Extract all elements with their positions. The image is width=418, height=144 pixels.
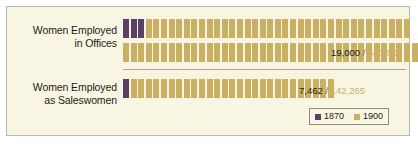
pictogram-figure-body [161, 46, 167, 62]
pictogram-figure-body [267, 82, 273, 98]
pictogram-figure-icon [207, 19, 213, 38]
pictogram-figure-icon [396, 19, 402, 38]
pictogram-figure-icon [260, 79, 266, 98]
pictogram-figure-icon [169, 43, 175, 62]
pictogram-figure-body [214, 22, 220, 38]
pictogram-figure-body [161, 22, 167, 38]
pictogram-figure-body [222, 82, 228, 98]
pictogram-figure-body [176, 82, 182, 98]
pictogram-figure-body [229, 46, 235, 62]
pictogram-figure-body [245, 46, 251, 62]
pictogram-figure-icon [275, 43, 281, 62]
pictogram-figure-body [222, 46, 228, 62]
pictogram-figure-icon [320, 43, 326, 62]
pictogram-figure-body [131, 46, 137, 62]
pictogram-figure-icon [343, 19, 349, 38]
pictogram-figure-icon [199, 43, 205, 62]
group-label-offices-line1: Women Employed [13, 24, 117, 37]
value-saleswomen-separator: / [325, 85, 328, 96]
pictogram-figure-icon [191, 19, 197, 38]
pictogram-figure-icon [366, 19, 372, 38]
pictogram-figure-icon [153, 19, 159, 38]
pictogram-figure-body [184, 82, 190, 98]
pictogram-figure-body [176, 46, 182, 62]
pictogram-figure-icon [282, 79, 288, 98]
pictogram-figure-icon [169, 79, 175, 98]
pictogram-figure-body [267, 46, 273, 62]
pictogram-figure-body [290, 82, 296, 98]
pictogram-figure-body [290, 22, 296, 38]
legend-label-1870: 1870 [324, 111, 344, 121]
pictogram-figure-icon [131, 79, 137, 98]
pictogram-figure-icon [191, 79, 197, 98]
pictogram-figure-icon [176, 79, 182, 98]
pictogram-figure-icon [222, 79, 228, 98]
pictogram-figure-body [328, 22, 334, 38]
pictogram-figure-icon [298, 19, 304, 38]
pictogram-figure-icon [267, 43, 273, 62]
pictogram-figure-body [260, 46, 266, 62]
pictogram-figure-body [320, 46, 326, 62]
pictogram-figure-icon [138, 79, 144, 98]
value-label-offices: 19,000 / 503,000 [331, 47, 402, 59]
pictogram-figure-body [207, 22, 213, 38]
pictogram-figure-icon [237, 79, 243, 98]
pictogram-figure-icon [138, 43, 144, 62]
pictogram-figure-body [320, 22, 326, 38]
pictogram-figure-body [146, 46, 152, 62]
group-label-offices: Women Employed in Offices [13, 24, 117, 50]
legend-item-1870: 1870 [315, 111, 344, 122]
pictogram-figure-icon [260, 19, 266, 38]
legend-swatch-1900-icon [354, 114, 360, 120]
pictogram-figure-body [169, 82, 175, 98]
pictogram-figure-icon [275, 19, 281, 38]
pictogram-figure-icon [146, 19, 152, 38]
group-label-saleswomen-line2: as Saleswomen [13, 94, 117, 107]
pictogram-figure-body [298, 46, 304, 62]
pictogram-figure-icon [169, 19, 175, 38]
pictogram-figure-body [153, 22, 159, 38]
pictogram-figure-icon [245, 43, 251, 62]
pictogram-figure-icon [123, 43, 129, 62]
pictogram-figure-icon [351, 19, 357, 38]
pictogram-figure-body [229, 82, 235, 98]
pictogram-figure-icon [191, 43, 197, 62]
pictogram-figure-body [404, 46, 410, 62]
pictogram-figure-icon [237, 19, 243, 38]
pictogram-figure-icon [313, 43, 319, 62]
pictogram-figure-icon [199, 79, 205, 98]
pictogram-row [123, 19, 418, 41]
pictogram-figure-icon [305, 19, 311, 38]
pictogram-figure-body [275, 82, 281, 98]
pictogram-figure-icon [275, 79, 281, 98]
pictogram-figure-icon [214, 19, 220, 38]
pictogram-figure-body [389, 22, 395, 38]
pictogram-figure-icon [237, 43, 243, 62]
pictogram-figure-icon [374, 19, 380, 38]
pictogram-figure-body [199, 82, 205, 98]
pictogram-figure-body [214, 82, 220, 98]
value-saleswomen-1900: 142,265 [331, 85, 365, 96]
pictogram-figure-body [267, 22, 273, 38]
pictogram-figure-body [237, 82, 243, 98]
pictogram-figure-body [138, 46, 144, 62]
pictogram-figure-body [123, 46, 129, 62]
pictogram-figure-icon [336, 19, 342, 38]
pictogram-figure-icon [328, 19, 334, 38]
pictogram-figure-icon [161, 79, 167, 98]
value-offices-1900: 503,000 [368, 47, 402, 58]
pictogram-figure-body [184, 22, 190, 38]
pictogram-figure-icon [282, 19, 288, 38]
pictogram-figure-body [313, 46, 319, 62]
pictogram-figure-icon [146, 79, 152, 98]
legend-item-1900: 1900 [354, 111, 383, 122]
pictogram-figure-body [169, 22, 175, 38]
pictogram-figure-body [305, 22, 311, 38]
pictogram-figure-body [191, 82, 197, 98]
pictogram-figure-body [313, 22, 319, 38]
pictogram-figure-body [161, 82, 167, 98]
pictogram-figure-body [184, 46, 190, 62]
group-label-saleswomen: Women Employed as Saleswomen [13, 81, 117, 107]
pictogram-figure-icon [290, 19, 296, 38]
pictogram-figure-icon [222, 19, 228, 38]
